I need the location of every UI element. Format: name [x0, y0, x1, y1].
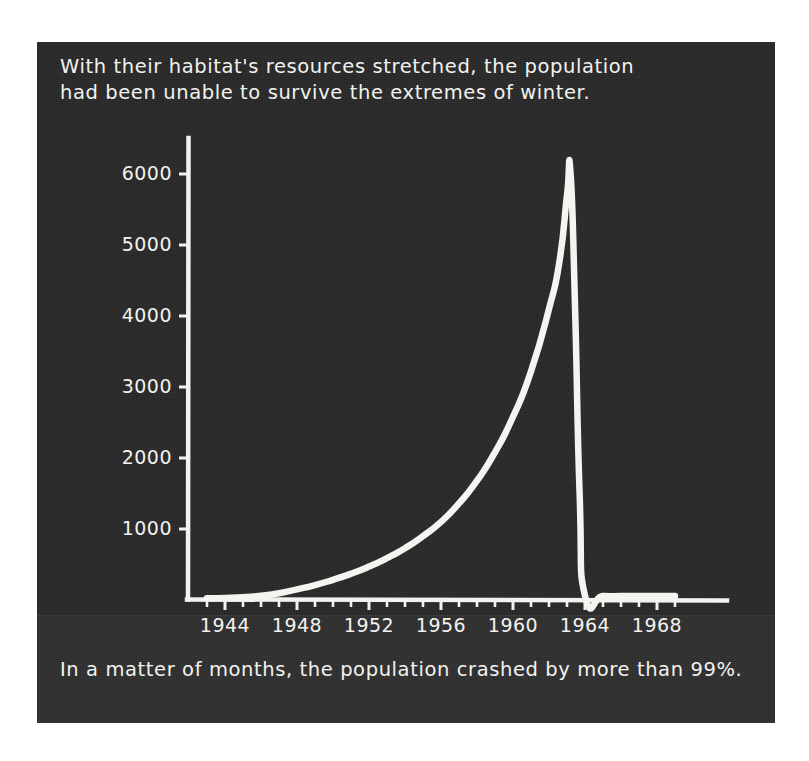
y-tick-label: 3000 — [94, 375, 172, 397]
x-tick-label: 1960 — [478, 614, 548, 636]
x-tick-label: 1964 — [550, 614, 620, 636]
chart-caption-text: In a matter of months, the population cr… — [60, 657, 760, 683]
y-axis-ticks — [179, 174, 188, 529]
y-axis-line — [188, 138, 189, 600]
y-tick-label: 4000 — [94, 304, 172, 326]
x-tick-label: 1948 — [262, 614, 332, 636]
x-tick-label: 1944 — [190, 614, 260, 636]
x-axis-minor-ticks — [207, 600, 675, 607]
chart-title-text: With their habitat's resources stretched… — [60, 54, 750, 106]
axes — [187, 138, 727, 601]
chart-panel: With their habitat's resources stretched… — [37, 42, 775, 723]
x-tick-label: 1968 — [622, 614, 692, 636]
x-axis-line — [187, 600, 727, 601]
page-root: With their habitat's resources stretched… — [0, 0, 809, 761]
y-tick-label: 5000 — [94, 233, 172, 255]
population-series-line — [207, 160, 675, 609]
x-tick-label: 1956 — [406, 614, 476, 636]
x-tick-label: 1952 — [334, 614, 404, 636]
y-tick-label: 2000 — [94, 446, 172, 468]
y-tick-label: 1000 — [94, 517, 172, 539]
y-tick-label: 6000 — [94, 162, 172, 184]
x-axis-ticks — [225, 600, 657, 610]
